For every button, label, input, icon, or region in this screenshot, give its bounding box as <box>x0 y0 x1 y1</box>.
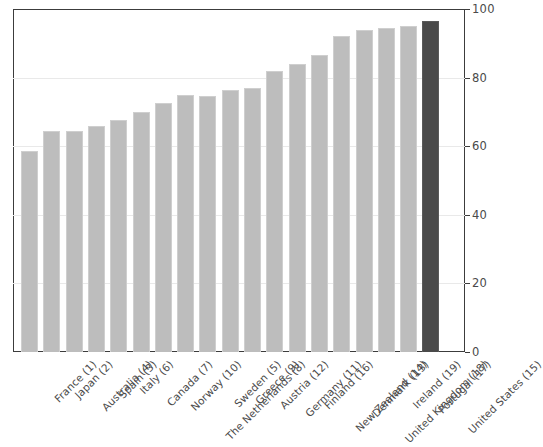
bar <box>222 90 239 352</box>
y-tick-label: 80 <box>472 71 487 85</box>
y-tick-mark <box>465 283 470 284</box>
y-tick-label: 40 <box>472 208 487 222</box>
bar <box>378 28 395 352</box>
y-tick-label: 0 <box>472 345 480 359</box>
y-tick-mark <box>465 78 470 79</box>
y-tick-label: 20 <box>472 276 487 290</box>
bar <box>311 55 328 352</box>
bar <box>244 88 261 352</box>
bar <box>110 120 127 352</box>
bar <box>289 64 306 352</box>
bar <box>400 26 417 352</box>
y-tick-mark <box>465 146 470 147</box>
bar <box>88 126 105 352</box>
bar <box>199 96 216 352</box>
bar <box>133 112 150 352</box>
bar <box>177 95 194 352</box>
bar <box>333 36 350 352</box>
bar <box>422 21 439 352</box>
gridline-80 <box>13 78 465 79</box>
y-tick-label: 100 <box>472 2 495 16</box>
y-tick-mark <box>465 215 470 216</box>
bar <box>356 30 373 352</box>
bar <box>155 103 172 352</box>
y-tick-label: 60 <box>472 139 487 153</box>
bar <box>66 131 83 352</box>
bar <box>43 131 60 352</box>
x-tick-label: Denmark (13) <box>369 358 430 419</box>
y-tick-mark <box>465 352 470 353</box>
bar <box>21 151 38 352</box>
y-tick-mark <box>465 9 470 10</box>
plot-area <box>13 9 465 352</box>
bar <box>266 71 283 352</box>
